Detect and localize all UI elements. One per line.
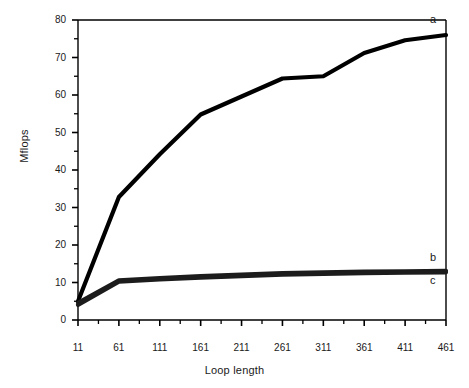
- y-axis-tick-label: 70: [40, 52, 66, 63]
- x-axis-tick-label: 61: [99, 342, 139, 353]
- y-axis-tick-label: 60: [40, 89, 66, 100]
- y-axis-tick-label: 80: [40, 14, 66, 25]
- y-axis-tick-label: 0: [40, 314, 66, 325]
- x-axis-tick-label: 161: [181, 342, 221, 353]
- series-label-b: b: [430, 251, 436, 263]
- y-axis-tick-label: 40: [40, 164, 66, 175]
- y-axis-tick-label: 50: [40, 127, 66, 138]
- x-axis-tick-label: 261: [262, 342, 302, 353]
- x-axis-tick-label: 111: [140, 342, 180, 353]
- x-axis-tick-label: 211: [222, 342, 262, 353]
- series-label-a: a: [430, 13, 436, 25]
- y-axis-tick-label: 30: [40, 202, 66, 213]
- x-axis-tick-label: 461: [426, 342, 466, 353]
- series-label-c: c: [430, 274, 436, 286]
- x-axis-title: Loop length: [0, 364, 469, 376]
- y-axis-title: Mflops: [18, 106, 30, 186]
- y-axis-tick-label: 20: [40, 239, 66, 250]
- chart-figure: 01020304050607080 1161111161211261311361…: [0, 0, 469, 388]
- x-axis-tick-label: 361: [344, 342, 384, 353]
- x-axis-tick-label: 411: [385, 342, 425, 353]
- x-axis-tick-label: 11: [58, 342, 98, 353]
- line-chart-plot: [0, 0, 469, 388]
- y-axis-tick-label: 10: [40, 277, 66, 288]
- chart-background: [0, 0, 469, 388]
- x-axis-tick-label: 311: [303, 342, 343, 353]
